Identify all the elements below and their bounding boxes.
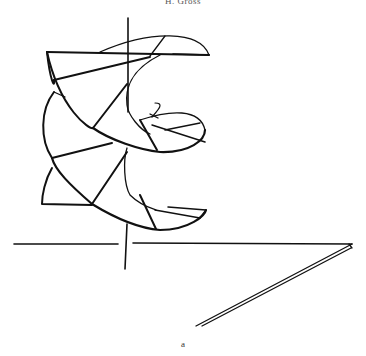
horizontal-line-right bbox=[133, 243, 352, 244]
figure-caption: a bbox=[0, 339, 366, 349]
helicoid-figure bbox=[0, 0, 366, 340]
